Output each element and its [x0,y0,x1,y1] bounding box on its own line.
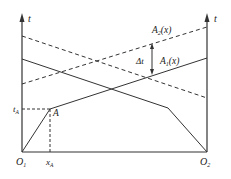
right-t-axis [205,13,210,152]
x-a-label: xA [45,157,54,168]
arrow-up-icon [205,13,210,22]
solid-line-a1 [22,58,207,152]
point-a-label: A [52,108,59,118]
t-a-label: tA [13,104,20,115]
arrow-up-icon [20,13,25,22]
delta-t-label: Δt [135,56,144,66]
left-axis-label: t [28,13,31,24]
right-axis-label: t [214,13,217,24]
solid-line-descending [22,59,207,152]
arrow-down-icon [150,69,154,75]
origin-o1-label: O1 [16,156,26,168]
origin-o2-label: O2 [200,156,210,168]
delta-t-arrow [150,43,154,75]
trajectory-diagram: t t A2(x) A1(x) Δt A tA xA O1 O2 [0,0,231,179]
a1-label: A1(x) [159,56,179,67]
a2-label: A2(x) [151,25,171,36]
left-t-axis [20,13,25,152]
